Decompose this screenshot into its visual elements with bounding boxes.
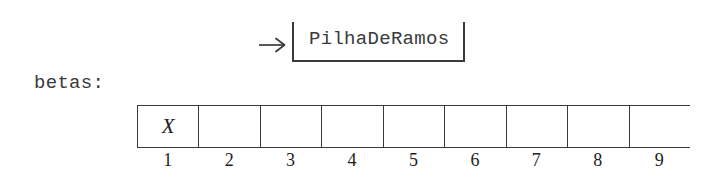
array-index-label: 8 xyxy=(567,149,628,171)
array-cell: X xyxy=(138,106,199,147)
array-cell xyxy=(568,106,629,147)
object-box-label: PilhaDeRamos xyxy=(309,30,449,49)
array-index-label: 4 xyxy=(321,149,382,171)
pointer-reference: PilhaDeRamos xyxy=(258,22,465,64)
array-diagram: X 1 2 3 4 5 6 7 8 xyxy=(137,105,690,171)
array-index-label: 3 xyxy=(260,149,321,171)
array-index-row: 1 2 3 4 5 6 7 8 9 xyxy=(137,149,690,171)
array-cell xyxy=(445,106,506,147)
array-cell xyxy=(261,106,322,147)
array-index-label: 2 xyxy=(198,149,259,171)
object-box: PilhaDeRamos xyxy=(292,22,465,62)
array-cell xyxy=(384,106,445,147)
array-index-label: 6 xyxy=(444,149,505,171)
array-cell-value: X xyxy=(162,116,175,137)
array-cell xyxy=(630,106,691,147)
array-cells-row: X xyxy=(137,105,690,148)
array-cell xyxy=(322,106,383,147)
array-index-label: 7 xyxy=(506,149,567,171)
array-cell xyxy=(199,106,260,147)
array-index-label: 5 xyxy=(383,149,444,171)
array-index-label: 1 xyxy=(137,149,198,171)
arrow-right-icon xyxy=(258,22,288,62)
variable-label: betas: xyxy=(34,72,104,94)
array-cell xyxy=(507,106,568,147)
array-index-label: 9 xyxy=(629,149,690,171)
